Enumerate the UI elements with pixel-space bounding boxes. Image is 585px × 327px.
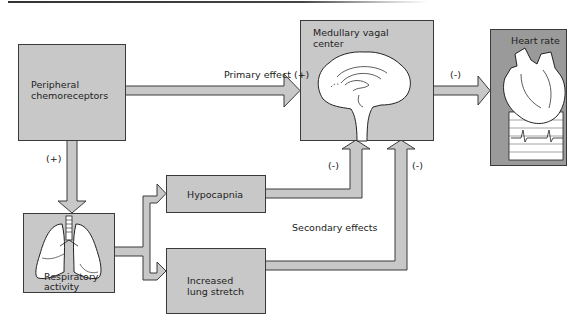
hypocapnia-arrow [265,140,370,198]
heart-edge-label: (-) [450,69,461,80]
respiratory-edge-label: (+) [46,153,61,164]
heart-icon [491,30,568,167]
respiratory-label-2: activity [44,281,79,292]
peripheral-label-1: Peripheral [31,79,79,90]
hypocapnia-label: Hypocapnia [187,189,243,200]
medullary-vagal-center-box: Medullary vagal center [300,20,434,141]
down-arrow [58,139,86,213]
peripheral-chemoreceptors-box: Peripheral chemoreceptors [18,44,126,141]
respiratory-activity-box: Respiratory activity [23,213,115,293]
primary-effect-label: Primary effect (+) [224,69,309,80]
hypocapnia-box: Hypocapnia [166,175,266,213]
heart-rate-box: Heart rate [490,29,567,166]
heart-arrow [433,76,490,105]
lung-stretch-box: Increased lung stretch [166,248,266,314]
brain-icon [301,21,435,142]
lung-stretch-label-2: lung stretch [187,286,244,297]
hypocapnia-edge-label: (-) [328,160,339,171]
stretch-edge-label: (-) [412,160,423,171]
lung-stretch-label-1: Increased [187,275,233,286]
split-arrow [114,184,166,280]
secondary-effects-label: Secondary effects [292,222,377,233]
peripheral-label-2: chemoreceptors [31,90,108,101]
stretch-arrow [265,140,415,270]
